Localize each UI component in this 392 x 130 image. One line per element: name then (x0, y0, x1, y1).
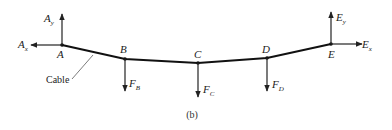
force-fc-label: FC (202, 83, 215, 98)
point-e-label: E (327, 48, 335, 60)
point-d-label: D (261, 43, 270, 55)
force-ex-label: Ex (361, 38, 373, 53)
force-ax-label: Ax (17, 38, 29, 53)
figure-caption: (b) (186, 109, 198, 121)
force-ey-label: Ey (335, 11, 347, 26)
point-b-label: B (120, 43, 127, 55)
force-fd-label: FD (271, 78, 284, 93)
cable-free-body-diagram: Cable A B C D E Ay Ax FB FC FD Ey Ex (b) (0, 0, 392, 130)
point-a-label: A (56, 48, 64, 60)
cable-leader-line (72, 55, 93, 79)
cable-label: Cable (46, 74, 70, 85)
force-fb-label: FB (128, 77, 141, 92)
force-ay-label: Ay (43, 12, 55, 27)
point-c-label: C (194, 48, 202, 60)
